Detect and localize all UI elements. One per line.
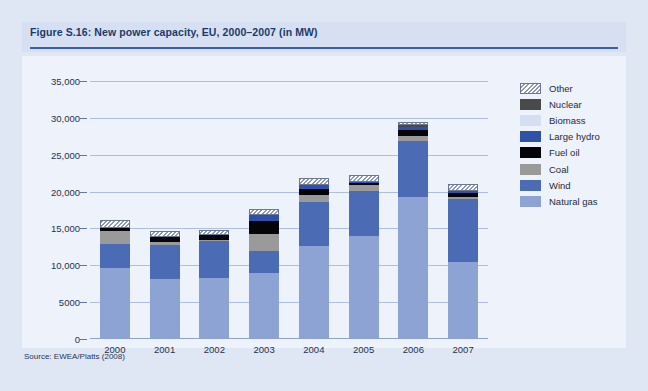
bar-segment-large-hydro[interactable]: [299, 185, 329, 189]
legend-label: Natural gas: [549, 196, 598, 207]
bar-segment-wind[interactable]: [349, 191, 379, 236]
y-axis-tick-mark: [80, 155, 87, 156]
y-axis-tick-label: 30,000: [51, 112, 80, 123]
y-axis-tick-mark: [80, 265, 87, 266]
bar-segment-fuel-oil[interactable]: [150, 237, 180, 242]
bar-2000[interactable]: [100, 220, 130, 339]
bar-segment-wind[interactable]: [398, 141, 428, 197]
bar-segment-coal[interactable]: [299, 195, 329, 202]
bar-segment-fuel-oil[interactable]: [349, 183, 379, 184]
bar-segment-wind[interactable]: [299, 202, 329, 246]
bar-segment-fuel-oil[interactable]: [448, 193, 478, 197]
y-axis-tick-mark: [80, 302, 87, 303]
x-axis-tick-label: 2006: [388, 344, 438, 355]
legend-swatch: [520, 115, 541, 126]
gridline: [90, 118, 488, 119]
bar-segment-fuel-oil[interactable]: [100, 228, 130, 232]
x-axis-tick-label: 2003: [239, 344, 289, 355]
legend-label: Fuel oil: [549, 147, 580, 158]
bar-segment-natural-gas[interactable]: [249, 273, 279, 339]
legend-label: Nuclear: [549, 99, 582, 110]
legend-item-large-hydro[interactable]: Large hydro: [520, 129, 624, 145]
bar-2005[interactable]: [349, 175, 379, 339]
bar-segment-natural-gas[interactable]: [100, 268, 130, 340]
bar-segment-natural-gas[interactable]: [299, 246, 329, 339]
bar-segment-large-hydro[interactable]: [349, 182, 379, 183]
bar-2004[interactable]: [299, 178, 329, 339]
bar-segment-coal[interactable]: [398, 136, 428, 141]
legend-swatch: [520, 99, 541, 110]
y-axis-tick-label: 35,000: [51, 76, 80, 87]
bar-segment-nuclear[interactable]: [398, 125, 428, 127]
bar-segment-coal[interactable]: [100, 231, 130, 244]
bar-2002[interactable]: [199, 230, 229, 339]
bar-segment-coal[interactable]: [448, 197, 478, 199]
source-note: Source: EWEA/Platts (2008): [24, 352, 125, 361]
bar-segment-other[interactable]: [249, 209, 279, 215]
bar-segment-large-hydro[interactable]: [448, 191, 478, 193]
bar-segment-other[interactable]: [199, 230, 229, 235]
legend-label: Coal: [549, 164, 569, 175]
y-axis-tick-mark: [80, 192, 87, 193]
bar-segment-other[interactable]: [150, 231, 180, 238]
bar-segment-coal[interactable]: [249, 234, 279, 251]
legend-swatch: [520, 83, 541, 94]
y-axis-tick-label: 10,000: [51, 260, 80, 271]
bar-segment-fuel-oil[interactable]: [299, 189, 329, 196]
x-axis-tick-label: 2001: [140, 344, 190, 355]
bar-2006[interactable]: [398, 122, 428, 339]
bar-segment-large-hydro[interactable]: [249, 215, 279, 221]
bar-segment-coal[interactable]: [349, 185, 379, 191]
figure-container: Figure S.16: New power capacity, EU, 200…: [0, 0, 648, 391]
legend-label: Other: [549, 83, 573, 94]
bar-segment-other[interactable]: [398, 122, 428, 126]
bar-segment-fuel-oil[interactable]: [199, 235, 229, 239]
gridline: [90, 81, 488, 82]
bar-segment-fuel-oil[interactable]: [249, 221, 279, 234]
bar-segment-other[interactable]: [349, 175, 379, 182]
bar-2001[interactable]: [150, 231, 180, 339]
legend-item-biomass[interactable]: Biomass: [520, 112, 624, 128]
legend-item-other[interactable]: Other: [520, 80, 624, 96]
bar-segment-coal[interactable]: [199, 240, 229, 241]
bar-segment-large-hydro[interactable]: [398, 127, 428, 130]
bar-segment-other[interactable]: [299, 178, 329, 185]
bar-segment-other[interactable]: [100, 220, 130, 228]
bar-segment-natural-gas[interactable]: [349, 236, 379, 339]
y-axis-tick-mark: [80, 118, 87, 119]
x-axis-tick-label: 2004: [289, 344, 339, 355]
legend-item-wind[interactable]: Wind: [520, 177, 624, 193]
bar-segment-natural-gas[interactable]: [150, 279, 180, 339]
bar-segment-fuel-oil[interactable]: [398, 130, 428, 135]
legend-swatch: [520, 131, 541, 142]
y-axis-tick-label: 5000: [59, 297, 80, 308]
bar-segment-wind[interactable]: [448, 199, 478, 262]
legend-item-nuclear[interactable]: Nuclear: [520, 96, 624, 112]
bar-segment-wind[interactable]: [249, 251, 279, 273]
bar-segment-wind[interactable]: [150, 245, 180, 278]
bar-segment-natural-gas[interactable]: [199, 278, 229, 339]
bar-2007[interactable]: [448, 184, 478, 339]
bar-2003[interactable]: [249, 209, 279, 339]
figure-title: Figure S.16: New power capacity, EU, 200…: [30, 26, 318, 38]
bar-segment-other[interactable]: [448, 184, 478, 191]
chart-legend: OtherNuclearBiomassLarge hydroFuel oilCo…: [520, 80, 624, 210]
bar-segment-wind[interactable]: [199, 241, 229, 278]
y-axis-tick-mark: [80, 228, 87, 229]
legend-swatch: [520, 196, 541, 207]
legend-item-fuel-oil[interactable]: Fuel oil: [520, 145, 624, 161]
y-axis-tick-label: 20,000: [51, 186, 80, 197]
legend-item-coal[interactable]: Coal: [520, 161, 624, 177]
legend-swatch: [520, 147, 541, 158]
y-axis-tick-mark: [80, 339, 87, 340]
plot-area: [90, 81, 488, 339]
bar-segment-coal[interactable]: [150, 242, 180, 245]
bar-segment-natural-gas[interactable]: [448, 262, 478, 339]
legend-item-natural-gas[interactable]: Natural gas: [520, 193, 624, 209]
bar-segment-wind[interactable]: [100, 244, 130, 268]
x-axis-tick-label: 2007: [438, 344, 488, 355]
y-axis: 0500010,00015,00020,00025,00030,00035,00…: [22, 81, 80, 339]
bar-segment-natural-gas[interactable]: [398, 197, 428, 339]
x-axis-tick-label: 2005: [339, 344, 389, 355]
legend-label: Wind: [549, 180, 571, 191]
